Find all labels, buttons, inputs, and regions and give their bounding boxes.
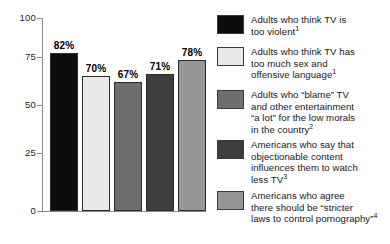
y-tick-mark-25 [37,153,42,154]
legend-footnote: 3 [283,173,287,180]
legend-line-3: laws to control pornography” [251,213,373,224]
bar-series: 82% 70% 67% 71% 78% [43,18,206,211]
y-tick-100: 100 [0,13,36,23]
legend-line-1: Americans who say that [251,139,354,150]
y-tick-mark-0 [37,211,42,212]
legend-line-3: “a lot” for the low morals [251,112,355,123]
legend-footnote: 2 [309,123,313,130]
y-tick-50: 50 [0,100,36,110]
y-tick-75: 75 [0,52,36,62]
legend-line-2: objectionable content [251,151,343,162]
y-tick-25: 25 [0,148,36,158]
legend-label: Americans who agree there should be “str… [251,190,390,225]
bar-value-label: 78% [171,47,213,58]
legend-label: Americans who say that objectionable con… [251,139,390,185]
legend-label: Adults who think TV is too violent1 [251,14,390,37]
legend-line-1: Adults who think TV is [251,14,346,25]
y-tick-mark-50 [37,105,42,106]
bar-chart-figure: 100 75 50 25 0 82% 70% [0,0,390,244]
legend-swatch-icon [217,140,244,159]
legend-swatch-icon [217,15,244,34]
bar-value-label: 82% [43,40,85,51]
chart-legend: Adults who think TV is too violent1 Adul… [215,0,390,244]
bar-rect[interactable] [50,53,78,211]
legend-line-2: too violent [251,26,295,37]
legend-line-1: Americans who agree [251,190,345,201]
legend-label: Adults who think TV has too much sex and… [251,46,390,81]
plot-area: 100 75 50 25 0 82% 70% [0,0,212,244]
bar-rect[interactable] [178,60,206,211]
y-tick-mark-75 [37,57,42,58]
legend-line-1: Adults who think TV has [251,46,355,57]
y-tick-mark-100 [37,18,42,19]
y-tick-label-0: 0 [6,206,36,216]
bar-rect[interactable] [114,82,142,211]
legend-footnote: 1 [332,68,336,75]
y-tick-0: 0 [0,206,36,216]
legend-footnote: 1 [295,24,299,31]
y-tick-label-100: 100 [6,13,36,23]
legend-line-4: less TV [251,174,283,185]
legend-swatch-icon [217,191,244,210]
y-tick-label-50: 50 [6,100,36,110]
legend-line-3: influences them to watch [251,162,358,173]
legend-swatch-icon [217,47,244,66]
bar-rect[interactable] [82,76,110,211]
y-tick-label-75: 75 [6,52,36,62]
legend-line-4: in the country [251,124,309,135]
legend-label: Adults who “blame” TV and other entertai… [251,89,390,135]
legend-line-1: Adults who “blame” TV [251,89,349,100]
legend-line-2: there should be “stricter [251,202,353,213]
legend-line-2: and other entertainment [251,101,354,112]
x-axis-baseline [42,211,206,212]
legend-line-3: offensive language [251,69,332,80]
legend-footnote: 4 [373,212,377,219]
bar-rect[interactable] [146,74,174,211]
legend-line-2: too much sex and [251,58,328,69]
bar-value-label: 71% [139,61,181,72]
y-tick-label-25: 25 [6,148,36,158]
legend-swatch-icon [217,90,244,109]
